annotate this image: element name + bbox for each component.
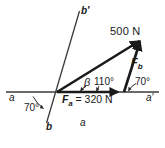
resultant-magnitude-label: 500 N	[110, 26, 140, 37]
figure-caption: a	[80, 118, 86, 128]
axis-a-right-label: a′	[146, 93, 153, 103]
force-b-subscript: b	[138, 62, 143, 71]
force-a-value: = 320 N	[73, 93, 113, 105]
axis-b-bottom-label: b	[46, 122, 52, 132]
angle-110-label: 110°	[94, 77, 114, 87]
force-b-symbol: F	[131, 56, 138, 68]
angle-70-right-label: 70°	[135, 77, 150, 87]
axis-a-left-label: a	[9, 93, 15, 103]
angle-70-left-label: 70°	[24, 103, 39, 113]
angle-beta-label: β	[84, 77, 90, 88]
force-b-label: Fb	[131, 57, 143, 71]
axis-b-top-label: b′	[81, 6, 90, 16]
force-a-equation-label: Fa = 320 N	[62, 94, 113, 108]
force-vector-figure: 500 N Fb Fa = 320 N β 110° 70° 70° a a′ …	[0, 0, 165, 148]
